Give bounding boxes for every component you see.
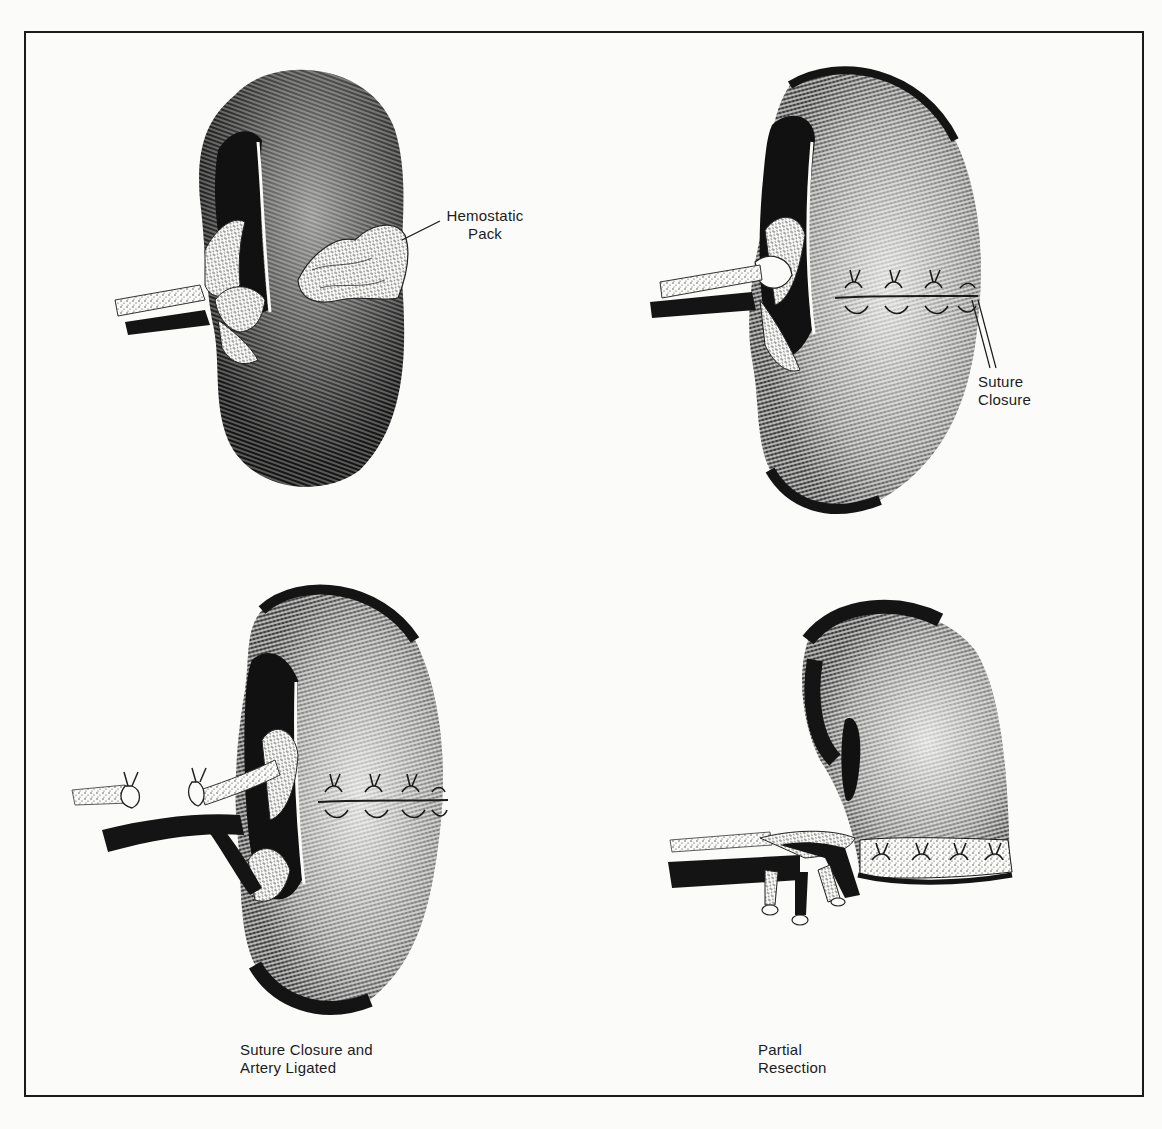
label-line: Suture bbox=[978, 373, 1058, 391]
caption-suture-artery-ligated: Suture Closure and Artery Ligated bbox=[240, 1041, 440, 1077]
caption-line: Suture Closure and bbox=[240, 1041, 440, 1059]
kidney-partial-resection bbox=[668, 607, 1012, 925]
kidney-suture-artery-ligated bbox=[72, 590, 448, 1008]
kidney-suture-closure bbox=[650, 70, 996, 509]
caption-partial-resection: Partial Resection bbox=[758, 1041, 878, 1077]
caption-line: Partial bbox=[758, 1041, 878, 1059]
suture-closure-label: Suture Closure bbox=[978, 373, 1058, 409]
label-line: Hemostatic bbox=[440, 207, 530, 225]
label-line: Pack bbox=[440, 225, 530, 243]
label-line: Closure bbox=[978, 391, 1058, 409]
kidney-illustrations bbox=[0, 0, 1162, 1129]
hemostatic-pack-label: Hemostatic Pack bbox=[440, 207, 530, 243]
caption-line: Artery Ligated bbox=[240, 1059, 440, 1077]
kidney-hemostatic-pack bbox=[115, 70, 440, 487]
caption-line: Resection bbox=[758, 1059, 878, 1077]
